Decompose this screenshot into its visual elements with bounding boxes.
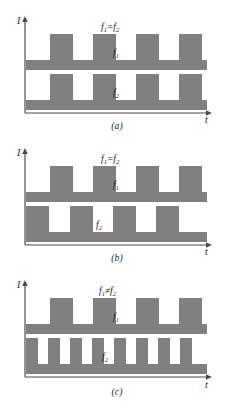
y-axis-arrow bbox=[22, 148, 28, 154]
signal-label-f2: f2 bbox=[96, 220, 103, 231]
relation-sub-2: 2 bbox=[116, 158, 120, 165]
panel-a-caption: (a) bbox=[0, 121, 234, 131]
svg-text:f1≠f2: f1≠f2 bbox=[99, 286, 117, 297]
signal-label-f2: f2 bbox=[113, 88, 120, 99]
svg-text:f1=f2: f1=f2 bbox=[101, 22, 120, 33]
panel-a-plot: I t f1=f2 bbox=[0, 8, 234, 123]
panel-b-plot: I t f1=f2 bbox=[0, 140, 234, 255]
waveform-f2 bbox=[26, 338, 207, 374]
panel-c-plot: I t bbox=[0, 272, 234, 390]
panel-c-caption: (c) bbox=[0, 387, 234, 397]
relation-annotation: f1=f2 bbox=[101, 154, 120, 165]
y-axis-arrow bbox=[22, 280, 28, 286]
relation-sub-2: 2 bbox=[113, 290, 117, 297]
relation-annotation: f1≠f2 bbox=[99, 286, 117, 297]
panel-b-caption: (b) bbox=[0, 253, 234, 263]
relation-annotation: f1=f2 bbox=[101, 22, 120, 33]
panel-c: I t bbox=[0, 272, 234, 390]
waveform-f2 bbox=[26, 206, 207, 242]
signal-label-f2: f2 bbox=[102, 352, 109, 363]
y-axis-label: I bbox=[16, 15, 21, 26]
panel-a: I t f1=f2 bbox=[0, 8, 234, 123]
panel-b: I t f1=f2 bbox=[0, 140, 234, 255]
svg-text:f1=f2: f1=f2 bbox=[101, 154, 120, 165]
relation-sub-2: 2 bbox=[116, 26, 120, 33]
y-axis-label: I bbox=[16, 279, 21, 290]
y-axis-arrow bbox=[22, 16, 28, 22]
signal-comparison-figure: I t f1=f2 bbox=[0, 0, 234, 415]
y-axis-label: I bbox=[16, 147, 21, 158]
